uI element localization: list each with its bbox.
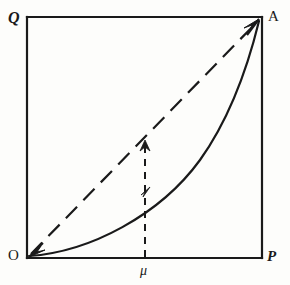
vertex-label-q: Q bbox=[8, 10, 20, 26]
chord-line-stroke bbox=[31, 21, 258, 254]
vertex-label-o: O bbox=[8, 248, 19, 263]
diagram-svg bbox=[0, 0, 290, 285]
chord-dashed-line bbox=[31, 21, 258, 254]
diagram-canvas: Q A O P μ bbox=[0, 0, 290, 285]
vertex-label-a: A bbox=[268, 9, 279, 24]
axis-label-mu: μ bbox=[140, 264, 147, 278]
vertex-label-p: P bbox=[267, 249, 276, 264]
